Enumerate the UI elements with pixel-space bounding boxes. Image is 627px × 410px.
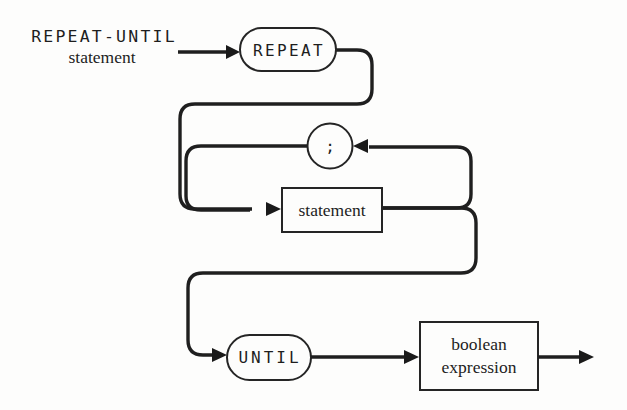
- semicolon-terminal-label: ;: [325, 137, 335, 156]
- repeat-until-syntax-diagram: REPEAT-UNTIL statement REPEAT ; statemen…: [0, 0, 627, 410]
- boolean-arrowhead-icon: [404, 350, 419, 364]
- exit-arrowhead-icon: [579, 350, 594, 364]
- entry-arrowhead-icon: [226, 45, 240, 59]
- until-terminal-label: UNTIL: [238, 348, 301, 367]
- diagram-heading-line1: REPEAT-UNTIL: [31, 27, 177, 46]
- statement-box-label: statement: [298, 200, 365, 220]
- boolean-expression-label-line1: boolean: [451, 334, 507, 354]
- boolean-expression-box-node: [420, 322, 538, 390]
- statement-arrowhead-icon: [266, 202, 281, 216]
- boolean-expression-label-line2: expression: [442, 357, 517, 377]
- semicolon-arrowhead-icon: [353, 139, 368, 153]
- repeat-terminal-label: REPEAT: [253, 41, 325, 60]
- textbook-page: REPEAT-UNTIL statement REPEAT ; statemen…: [0, 0, 627, 410]
- until-arrowhead-icon: [212, 348, 227, 362]
- diagram-heading-line2: statement: [68, 47, 135, 67]
- flow-line-loop-back: [369, 147, 471, 208]
